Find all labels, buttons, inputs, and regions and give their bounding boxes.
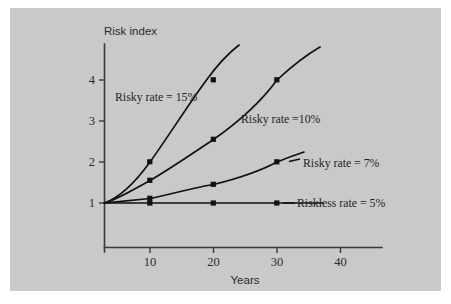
y-axis-ticks: 1 2 3 4 [89,73,105,210]
x-tick-label-30: 30 [271,255,284,269]
marker-10pct-yr10 [147,178,152,183]
risk-index-line-chart: 1 2 3 4 10 20 30 40 Risk index Years [0,0,451,304]
curve-risky-15 [105,45,240,203]
marker-15pct-yr10 [147,159,152,164]
marker-5pct-yr30 [274,200,279,205]
marker-10pct-yr20 [211,137,216,142]
leader-risky-7 [289,159,300,162]
series-label-riskless-5: Riskless rate = 5% [297,196,385,210]
marker-7pct-yr20 [211,182,216,187]
marker-10pct-yr30 [274,77,279,82]
x-axis-title: Years [231,274,260,286]
series-label-risky-15: Risky rate = 15% [115,90,198,104]
marker-7pct-yr30 [274,159,279,164]
y-tick-label-2: 2 [89,155,95,169]
curve-risky-7 [105,152,305,203]
y-tick-label-3: 3 [89,114,95,128]
series-label-risky-7: Risky rate = 7% [303,156,380,170]
y-tick-label-1: 1 [89,196,95,210]
x-tick-label-10: 10 [144,255,157,269]
axes-group [105,44,383,252]
y-tick-label-4: 4 [89,73,96,87]
marker-5pct-yr10 [147,200,152,205]
marker-7pct-yr10 [147,196,152,201]
x-tick-label-40: 40 [334,255,347,269]
y-axis-title: Risk index [104,25,157,37]
marker-15pct-yr20 [211,77,216,82]
chart-figure: 1 2 3 4 10 20 30 40 Risk index Years [0,0,451,304]
x-tick-label-20: 20 [207,255,220,269]
marker-5pct-yr20 [211,200,216,205]
series-label-risky-10: Risky rate =10% [241,112,321,126]
x-axis-ticks: 10 20 30 40 [144,248,347,270]
